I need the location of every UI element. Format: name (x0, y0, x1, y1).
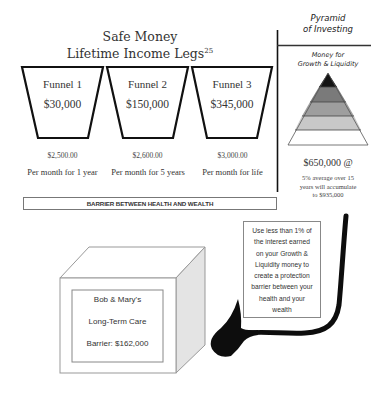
funnel-2-amount: $150,000 (107, 98, 188, 110)
cube-shape (60, 247, 205, 373)
funnel-3-amount: $345,000 (192, 98, 272, 110)
title-line-1: Safe Money (0, 30, 280, 44)
cube-label-owner: Bob & Mary's (72, 295, 163, 304)
funnel-3-monthly: $3,000.00 (190, 151, 275, 160)
cube-label-amount: Barrier: $162,000 (72, 339, 163, 348)
cube-label-purpose: Long-Term Care (72, 317, 163, 326)
pyramid-growth-note: 5% average over 15 years will accumulate… (282, 174, 374, 200)
callout-line: Use less than 1% of (244, 225, 320, 236)
footnote-marker: 25 (204, 47, 213, 55)
callout-line: health and your (244, 293, 320, 304)
pyramid-title-line-2: of Investing (282, 24, 374, 35)
funnel-1-label: Funnel 1 (22, 78, 103, 90)
callout-line: on your Growth & (244, 248, 320, 259)
title-line-2: Lifetime Income Legs25 (0, 44, 280, 61)
pyramid-amount: $650,000 @ (282, 157, 374, 168)
callout-line: the interest earned (244, 236, 320, 247)
pyramid-title-line-1: Pyramid (282, 13, 374, 24)
funnel-1-amount: $30,000 (22, 98, 103, 110)
note-line: 5% average over 15 (282, 174, 374, 183)
pyramid-title: Pyramid of Investing (282, 13, 374, 35)
pyramid-subtitle-line-1: Money for (282, 51, 374, 60)
page-title: Safe Money Lifetime Income Legs25 (0, 30, 280, 61)
pyramid-subtitle-line-2: Growth & Liquidity (282, 60, 374, 69)
callout-line: barrier between your (244, 281, 320, 292)
note-line: to $935,000 (282, 191, 374, 200)
funnel-2-duration: Per month for 5 years (98, 167, 198, 177)
callout-line: Liquidity money to (244, 259, 320, 270)
pyramid-subtitle: Money for Growth & Liquidity (282, 51, 374, 69)
callout-box: Use less than 1% of the interest earned … (243, 221, 321, 318)
funnel-2-label: Funnel 2 (107, 78, 188, 90)
callout-line: wealth (244, 304, 320, 315)
pyramid-icon (288, 73, 368, 145)
funnel-1-duration: Per month for 1 year (15, 167, 110, 177)
funnel-3-label: Funnel 3 (192, 78, 272, 90)
funnel-2-monthly: $2,600.00 (105, 151, 190, 160)
funnel-3-duration: Per month for life (185, 167, 280, 177)
funnel-1-monthly: $2,500.00 (20, 151, 105, 160)
note-line: years will accumulate (282, 183, 374, 192)
callout-line: create a protection (244, 270, 320, 281)
barrier-banner: BARRIER BETWEEN HEALTH AND WEALTH (23, 197, 277, 210)
